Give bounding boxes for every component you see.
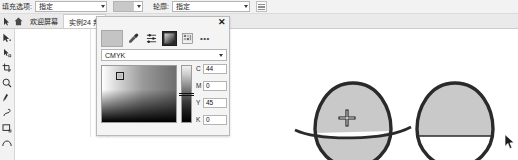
gradient-icon[interactable] [162,31,177,46]
fill-options-label: 填充选项: [0,3,35,10]
arrow-cursor [504,134,516,150]
color-mode-value: CMYK [105,52,125,59]
color-selection-marker[interactable] [116,72,124,80]
cmyk-label-m: M [196,82,201,89]
freehand-tool[interactable] [0,91,14,104]
cmyk-input-c[interactable]: 44 [203,64,227,74]
color-gradient-area[interactable] [101,65,177,123]
chevron-down-icon [244,5,248,8]
crop-tool[interactable] [0,61,14,74]
color-mode-dropdown[interactable]: CMYK [101,49,227,61]
document-tab-welcome[interactable]: 欢迎屏幕 [25,14,63,28]
fill-color-swatch [114,2,133,11]
shape-tool[interactable] [0,46,14,59]
sliders-icon[interactable] [144,31,159,46]
outline-value: 指定 [176,3,190,10]
color-picker-panel: ✕ ••• CMYK [96,16,230,136]
more-options-button[interactable]: ••• [200,34,210,43]
drawing-canvas[interactable] [15,29,518,160]
chevron-down-icon [101,5,105,8]
rectangle-tool[interactable] [0,121,14,134]
cmyk-input-k[interactable]: 0 [203,115,227,125]
palette-grid-icon[interactable] [180,31,195,46]
smart-fill-tool[interactable] [0,106,14,119]
toolbox [0,29,15,160]
zoom-tool[interactable] [0,76,14,89]
cmyk-field-y: Y 45 [196,97,227,108]
crosshair-cursor [337,109,357,129]
chevron-down-icon [137,5,141,8]
cmyk-input-m[interactable]: 0 [203,81,227,91]
cmyk-field-c: C 44 [196,63,227,74]
pointer-icon [0,14,12,28]
chevron-down-icon [219,54,223,57]
property-bar: 填充选项: 指定 轮廓: 指定 [0,0,518,14]
cmyk-fields: C 44 M 0 Y 45 K 0 [196,63,227,125]
cmyk-field-m: M 0 [196,80,227,91]
page-guide [90,29,91,137]
home-icon[interactable] [12,14,25,28]
close-icon[interactable]: ✕ [217,18,226,27]
cmyk-label-k: K [196,116,201,123]
fill-options-value: 指定 [39,3,53,10]
color-panel-toolbar: ••• [101,29,227,48]
eyedropper-icon[interactable] [126,31,141,46]
coreldraw-window: 填充选项: 指定 轮廓: 指定 欢迎屏幕 实例24 邦 [0,0,518,160]
fill-color-swatch-button[interactable] [113,1,143,12]
current-color-swatch[interactable] [101,30,123,47]
ellipse-tool[interactable] [0,136,14,149]
outline-width-icon[interactable] [256,1,267,12]
egg-shape-half-filled[interactable] [405,75,505,160]
cmyk-label-y: Y [196,99,201,106]
outline-label: 轮廓: [151,3,172,10]
fill-color-dropdown[interactable] [133,2,142,11]
fill-options-dropdown[interactable]: 指定 [35,1,107,12]
hue-slider-handle[interactable] [179,93,194,96]
pick-tool[interactable] [0,31,14,44]
document-tab-bar: 欢迎屏幕 实例24 邦 [0,14,518,29]
outline-dropdown[interactable]: 指定 [172,1,250,12]
cmyk-label-c: C [196,65,201,72]
cmyk-field-k: K 0 [196,114,227,125]
cmyk-input-y[interactable]: 45 [203,98,227,108]
